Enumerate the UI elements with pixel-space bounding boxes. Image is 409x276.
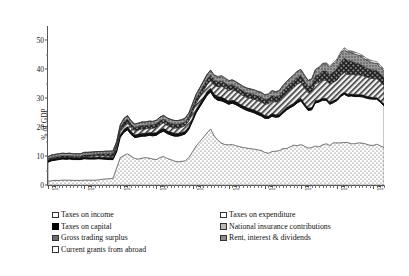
- x-tick-minor: [66, 185, 67, 188]
- x-tick-minor: [182, 185, 183, 188]
- stacked-area-series: [48, 26, 384, 185]
- x-tick-mark: [337, 185, 338, 189]
- legend-item-label: Rent, interest & dividends: [229, 232, 311, 244]
- legend-item[interactable]: Gross trading surplus: [52, 232, 146, 244]
- x-tick-minor: [290, 185, 291, 188]
- x-tick-minor: [370, 185, 371, 188]
- legend-item[interactable]: Taxes on expenditure: [220, 209, 331, 221]
- x-tick-minor: [319, 185, 320, 188]
- x-tick-minor: [355, 185, 356, 188]
- x-tick-minor: [77, 185, 78, 188]
- x-tick-mark: [48, 185, 49, 189]
- x-tick-minor: [261, 185, 262, 188]
- x-tick-minor: [189, 185, 190, 188]
- x-tick-minor: [185, 185, 186, 188]
- legend-column-left: Taxes on incomeTaxes on capitalGross tra…: [52, 209, 146, 255]
- legend-item[interactable]: Taxes on capital: [52, 221, 146, 233]
- black-square-icon: [52, 223, 59, 230]
- legend-item-label: Gross trading surplus: [61, 232, 128, 244]
- x-tick-minor: [283, 185, 284, 188]
- x-tick-minor: [171, 185, 172, 188]
- legend-item-label: Taxes on income: [61, 209, 114, 221]
- horizontal-lines-square-icon: [52, 246, 59, 253]
- x-tick-minor: [323, 185, 324, 188]
- x-tick-mark: [193, 185, 194, 189]
- x-tick-minor: [149, 185, 150, 188]
- x-tick-minor: [138, 185, 139, 188]
- x-tick-minor: [351, 185, 352, 188]
- x-tick-mark: [156, 185, 157, 189]
- legend-item[interactable]: Taxes on income: [52, 209, 146, 221]
- legend-item[interactable]: National insurance contributions: [220, 221, 331, 233]
- diagonal-hatch-square-icon: [220, 223, 227, 230]
- x-tick-minor: [99, 185, 100, 188]
- x-tick-minor: [315, 185, 316, 188]
- x-tick-minor: [62, 185, 63, 188]
- x-tick-minor: [359, 185, 360, 188]
- x-tick-minor: [113, 185, 114, 188]
- x-tick-minor: [247, 185, 248, 188]
- white-square-icon: [52, 212, 59, 219]
- legend-column-right: Taxes on expenditureNational insurance c…: [220, 209, 331, 244]
- x-tick-minor: [362, 185, 363, 188]
- x-tick-mark: [84, 185, 85, 189]
- legend-item-label: National insurance contributions: [229, 221, 331, 233]
- x-tick-minor: [117, 185, 118, 188]
- grey-square-icon: [220, 235, 227, 242]
- x-tick-minor: [225, 185, 226, 188]
- x-tick-minor: [109, 185, 110, 188]
- chart-figure: % of GDP 01020304050 1900191019201930194…: [0, 0, 409, 276]
- x-tick-minor: [294, 185, 295, 188]
- x-tick-minor: [297, 185, 298, 188]
- x-tick-mark: [120, 185, 121, 189]
- x-tick-mark: [229, 185, 230, 189]
- legend-item-label: Current grants from abroad: [61, 244, 146, 256]
- x-tick-minor: [250, 185, 251, 188]
- x-tick-minor: [70, 185, 71, 188]
- x-tick-minor: [286, 185, 287, 188]
- legend-item[interactable]: Current grants from abroad: [52, 244, 146, 256]
- x-tick-mark: [301, 185, 302, 189]
- x-tick-minor: [258, 185, 259, 188]
- x-tick-minor: [211, 185, 212, 188]
- plot-area: % of GDP 01020304050 1900191019201930194…: [47, 26, 384, 186]
- x-tick-minor: [243, 185, 244, 188]
- dotted-square-icon: [220, 212, 227, 219]
- plot-clip: [48, 26, 384, 185]
- x-tick-minor: [81, 185, 82, 188]
- x-tick-minor: [135, 185, 136, 188]
- x-tick-minor: [207, 185, 208, 188]
- x-tick-minor: [146, 185, 147, 188]
- x-tick-minor: [333, 185, 334, 188]
- legend-item-label: Taxes on capital: [61, 221, 112, 233]
- x-tick-minor: [326, 185, 327, 188]
- crosshatch-square-icon: [52, 235, 59, 242]
- x-tick-minor: [174, 185, 175, 188]
- x-tick-minor: [178, 185, 179, 188]
- x-tick-mark: [373, 185, 374, 189]
- x-tick-minor: [221, 185, 222, 188]
- x-tick-minor: [214, 185, 215, 188]
- x-tick-minor: [218, 185, 219, 188]
- x-tick-minor: [73, 185, 74, 188]
- x-tick-minor: [106, 185, 107, 188]
- x-tick-minor: [142, 185, 143, 188]
- legend-item[interactable]: Rent, interest & dividends: [220, 232, 331, 244]
- legend-item-label: Taxes on expenditure: [229, 209, 296, 221]
- x-tick-minor: [366, 185, 367, 188]
- x-tick-minor: [153, 185, 154, 188]
- x-tick-mark: [265, 185, 266, 189]
- x-tick-minor: [102, 185, 103, 188]
- x-tick-minor: [279, 185, 280, 188]
- x-tick-minor: [330, 185, 331, 188]
- x-tick-minor: [254, 185, 255, 188]
